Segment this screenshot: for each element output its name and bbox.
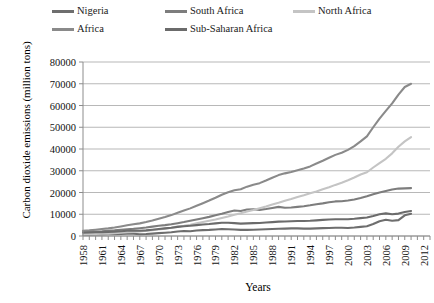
svg-text:50000: 50000 xyxy=(50,122,76,133)
svg-text:1979: 1979 xyxy=(210,245,221,266)
svg-text:1985: 1985 xyxy=(248,245,259,266)
svg-text:60000: 60000 xyxy=(50,101,76,112)
svg-text:20000: 20000 xyxy=(50,188,76,199)
svg-text:1997: 1997 xyxy=(324,245,335,266)
y-axis-ticks xyxy=(79,62,83,236)
svg-text:40000: 40000 xyxy=(50,144,76,155)
svg-text:10000: 10000 xyxy=(50,209,76,220)
svg-text:70000: 70000 xyxy=(50,79,76,90)
svg-text:1967: 1967 xyxy=(135,245,146,266)
svg-text:2003: 2003 xyxy=(362,245,373,266)
svg-text:1964: 1964 xyxy=(116,244,127,266)
svg-text:1961: 1961 xyxy=(97,245,108,266)
x-axis-title: Years xyxy=(83,281,433,293)
svg-text:0: 0 xyxy=(71,231,76,242)
x-axis-tick-labels: 1958196119641967197019731976197919821985… xyxy=(78,244,430,266)
svg-text:80000: 80000 xyxy=(50,57,76,68)
svg-text:2009: 2009 xyxy=(400,245,411,266)
plot-svg: 8000070000600005000040000300002000010000… xyxy=(0,0,434,303)
svg-text:1994: 1994 xyxy=(305,244,316,266)
plot-area: 8000070000600005000040000300002000010000… xyxy=(0,0,434,303)
svg-text:2012: 2012 xyxy=(419,245,430,266)
y-axis-title-holder: Carbon dioxide emissions (million tons) xyxy=(0,60,20,240)
svg-text:1988: 1988 xyxy=(267,245,278,266)
co2-emissions-line-chart: Nigeria South Africa North Africa Africa… xyxy=(0,0,434,303)
svg-text:30000: 30000 xyxy=(50,166,76,177)
y-axis-title: Carbon dioxide emissions (million tons) xyxy=(20,40,32,220)
svg-text:1958: 1958 xyxy=(78,245,89,266)
x-axis-ticks xyxy=(83,236,430,240)
svg-text:1991: 1991 xyxy=(286,245,297,266)
svg-text:1976: 1976 xyxy=(192,245,203,266)
svg-text:1973: 1973 xyxy=(173,245,184,266)
y-axis-tick-labels: 8000070000600005000040000300002000010000… xyxy=(50,57,76,242)
svg-text:2006: 2006 xyxy=(381,245,392,266)
svg-text:1970: 1970 xyxy=(154,245,165,266)
data-series-lines xyxy=(83,84,411,235)
svg-text:2000: 2000 xyxy=(343,245,354,266)
svg-text:1982: 1982 xyxy=(229,245,240,266)
